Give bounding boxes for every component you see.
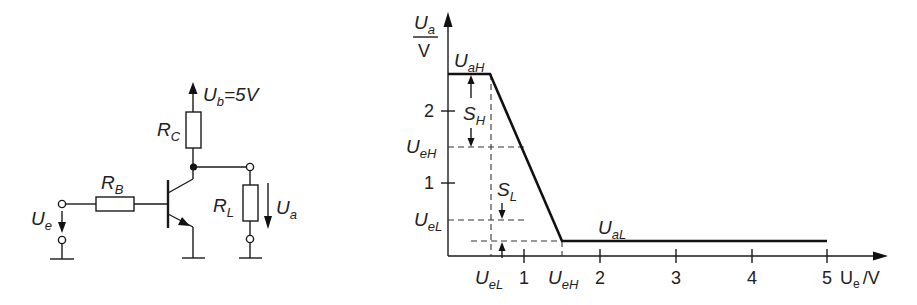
resistor-rc	[186, 112, 201, 148]
input-voltage-label: Ue	[31, 208, 52, 233]
diagram-svg: Ub=5V RC RB	[0, 0, 917, 305]
rb-label: RB	[101, 172, 124, 197]
ueL-x-label: UeL	[475, 267, 503, 292]
sl-label: SL	[497, 179, 517, 204]
x-tick-1: 1	[519, 268, 529, 288]
resistor-rb	[96, 197, 134, 211]
x-axis-arrow-icon	[873, 252, 888, 261]
npn-transistor-icon	[168, 167, 205, 258]
supply-arrow-icon	[189, 82, 198, 112]
input-voltage-arrow-icon	[58, 211, 66, 233]
x-axis-label: Ue/V	[840, 268, 880, 291]
x-tick-3: 3	[671, 268, 681, 288]
y-axis-unit: V	[418, 41, 430, 61]
y-axis-arrow-icon	[444, 12, 453, 27]
output-voltage-label: Ua	[276, 197, 297, 222]
circuit: Ub=5V RC RB	[31, 82, 297, 259]
output-voltage-arrow-icon	[264, 183, 272, 229]
sh-label: SH	[463, 103, 486, 128]
transfer-chart: Ua V 2 1 1 2 3 4 5 Ue/V UaH	[406, 12, 888, 292]
transfer-curve	[448, 74, 827, 241]
x-tick-2: 2	[595, 268, 605, 288]
rc-label: RC	[157, 119, 181, 144]
diagram-stage: Ub=5V RC RB	[0, 0, 917, 305]
output-terminal-bottom	[246, 235, 253, 242]
sl-margin-arrow-icon	[499, 203, 506, 258]
x-tick-4: 4	[747, 268, 757, 288]
y-tick-1: 1	[424, 173, 434, 193]
input-terminal-bottom	[58, 236, 65, 243]
ueH-y-label: UeH	[406, 136, 437, 161]
y-axis-label: Ua	[414, 12, 435, 37]
supply-label: Ub=5V	[203, 84, 261, 109]
output-terminal-top	[246, 163, 253, 170]
ueH-x-label: UeH	[548, 267, 579, 292]
uaL-label: UaL	[598, 217, 626, 242]
y-tick-2: 2	[424, 101, 434, 121]
rl-label: RL	[213, 195, 234, 220]
uaH-label: UaH	[454, 50, 485, 75]
ueL-y-label: UeL	[414, 209, 442, 234]
x-tick-5: 5	[822, 268, 832, 288]
input-terminal-top	[58, 200, 65, 207]
resistor-rl	[243, 185, 258, 221]
